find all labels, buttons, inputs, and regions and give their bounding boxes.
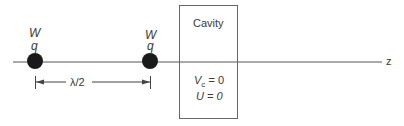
cavity-energy: U = 0 xyxy=(196,91,223,102)
z-axis-label: z xyxy=(386,56,392,67)
charge-dot-2 xyxy=(142,53,158,69)
charge-1-charge-label: q xyxy=(31,40,38,52)
spacing-dimension xyxy=(36,76,151,89)
cavity-voltage: Vc = 0 xyxy=(194,75,224,89)
charge-1-energy-label: W xyxy=(29,27,40,39)
voltage-value: = 0 xyxy=(205,74,224,86)
spacing-label: λ/2 xyxy=(70,77,85,88)
charge-2-charge-label: q xyxy=(147,40,154,52)
cavity-title: Cavity xyxy=(193,18,224,29)
charge-dot-1 xyxy=(27,53,43,69)
